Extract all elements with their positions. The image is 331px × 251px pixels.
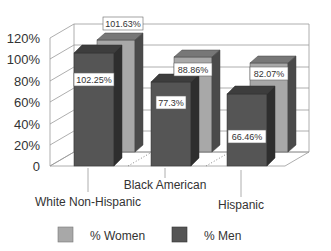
legend-swatch-women (58, 227, 73, 242)
label-women-hispanic: 82.07% (254, 69, 285, 79)
label-men-black: 77.3% (158, 98, 184, 108)
bar-men-black (151, 74, 199, 166)
y-tick: 120% (7, 31, 41, 46)
category-label: White Non-Hispanic (35, 195, 141, 209)
legend: % Women % Men (58, 227, 241, 243)
y-axis-ticks: 0 20% 40% 60% 80% 100% 120% (7, 31, 41, 174)
y-tick: 0 (33, 159, 40, 174)
label-men-hispanic: 66.46% (232, 132, 263, 142)
legend-label-men: % Men (204, 229, 241, 243)
y-tick: 40% (14, 117, 40, 132)
y-tick: 100% (7, 52, 41, 67)
label-men-white: 102.25% (76, 75, 112, 85)
label-women-white: 101.63% (105, 19, 141, 29)
bar-men-hispanic (227, 86, 275, 166)
legend-swatch-men (172, 227, 187, 242)
y-tick: 20% (14, 138, 40, 153)
x-axis-labels: White Non-Hispanic Black American Hispan… (35, 178, 264, 212)
category-label: Black American (124, 178, 207, 192)
chart-container: 0 20% 40% 60% 80% 100% 120% (0, 0, 331, 251)
y-tick: 80% (14, 74, 40, 89)
label-women-black: 88.86% (178, 65, 209, 75)
bar-men-white (74, 45, 122, 166)
legend-label-women: % Women (90, 229, 145, 243)
category-label: Hispanic (218, 198, 264, 212)
y-tick: 60% (14, 95, 40, 110)
